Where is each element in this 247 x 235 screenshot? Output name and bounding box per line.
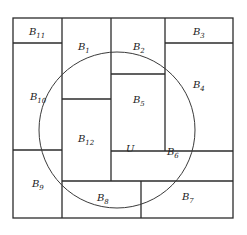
label-b9: B9 — [31, 178, 44, 192]
label-b11: B11 — [28, 26, 45, 40]
label-b1: B1 — [77, 41, 90, 55]
label-b3: B3 — [192, 26, 205, 40]
label-b7: B7 — [181, 191, 194, 205]
label-b6: B6 — [166, 146, 179, 160]
label-b10: B10 — [29, 91, 47, 105]
label-b12: B12 — [77, 133, 95, 147]
partition-lines — [13, 18, 233, 218]
block-diagram: B1 B2 B3 B4 B5 B6 B7 B8 B9 B10 B11 B12 U — [0, 0, 247, 235]
label-b2: B2 — [132, 41, 145, 55]
label-b4: B4 — [192, 79, 205, 93]
label-b8: B8 — [96, 192, 109, 206]
label-b5: B5 — [132, 94, 145, 108]
outer-boundary — [13, 18, 233, 218]
label-u: U — [126, 143, 135, 154]
